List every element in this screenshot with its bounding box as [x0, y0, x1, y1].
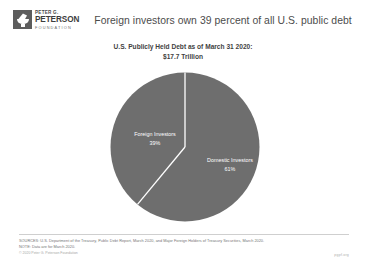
footer-copyright: © 2020 Peter G. Peterson Foundation — [19, 251, 349, 257]
pie-slice-label-foreign-investors: Foreign Investors 39% — [112, 130, 198, 149]
pie-slice-label-domestic-investors: Domestic Investors 61% — [184, 156, 276, 175]
logo-line-two: PETERSON — [35, 16, 79, 24]
pie-slice-label-foreign-pct: 39% — [112, 139, 198, 148]
footer-divider — [19, 234, 349, 235]
pie-slice-label-domestic-name: Domestic Investors — [207, 157, 253, 163]
watermark-pgpf-org: pgpf.org — [334, 253, 349, 257]
chart-title-line-two: $17.7 Trillion — [0, 52, 366, 62]
pie-slice-label-foreign-name: Foreign Investors — [134, 131, 176, 137]
torch-bowl-icon — [13, 10, 32, 29]
peterson-foundation-logo: PETER G. PETERSON FOUNDATION — [13, 10, 79, 29]
pie-slice-label-domestic-pct: 61% — [184, 165, 276, 174]
stem-shape — [21, 24, 25, 27]
footer-note: NOTE: Data are for March 2020. — [19, 244, 349, 250]
chart-title: U.S. Publicly Held Debt as of March 31 2… — [0, 42, 366, 62]
page-title: Foreign investors own 39 percent of all … — [94, 15, 352, 26]
chart-title-line-one: U.S. Publicly Held Debt as of March 31 2… — [0, 42, 366, 52]
pie-chart: Foreign Investors 39% Domestic Investors… — [110, 72, 260, 222]
logo-line-three: FOUNDATION — [35, 26, 79, 30]
footer: SOURCES: U.S. Department of the Treasury… — [19, 234, 349, 257]
logo-wordmark: PETER G. PETERSON FOUNDATION — [35, 10, 79, 29]
page-header: PETER G. PETERSON FOUNDATION Foreign inv… — [0, 0, 366, 40]
